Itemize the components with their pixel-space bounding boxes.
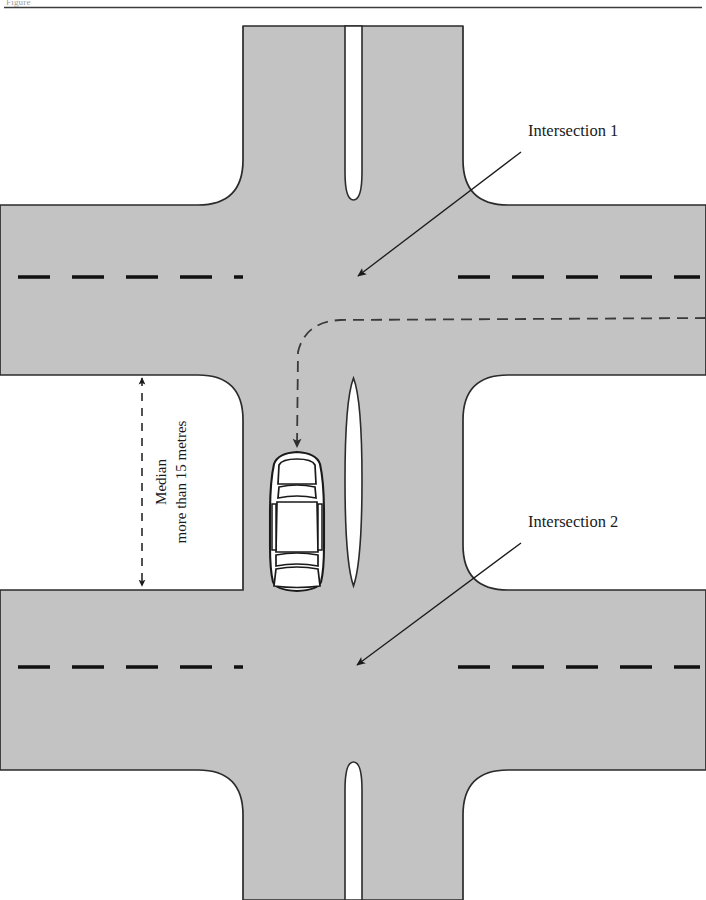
- intersection-2-label: Intersection 2: [528, 512, 618, 531]
- car-window-right: [318, 504, 322, 550]
- intersection-1-label: Intersection 1: [528, 121, 618, 140]
- median-islands-group: [345, 26, 362, 900]
- car-roof-panel: [276, 502, 318, 552]
- intersection-diagram: Median more than 15 metres Intersection …: [0, 0, 706, 900]
- car-window-left: [272, 504, 276, 550]
- centre-median-island: [345, 378, 362, 586]
- car-rear-roof-edge: [278, 485, 316, 498]
- median-dimension-label-line1: Median: [153, 459, 169, 505]
- car-top-view: [270, 452, 324, 591]
- lower-median-island: [345, 762, 362, 900]
- car-bonnet: [274, 567, 320, 588]
- median-width-dimension: Median more than 15 metres: [142, 378, 189, 586]
- median-dimension-label-line2: more than 15 metres: [173, 420, 189, 543]
- car-rear-window: [278, 459, 316, 484]
- figure-page: Figure: [0, 0, 706, 900]
- upper-median-island: [345, 26, 362, 200]
- car-front-roof-edge: [276, 553, 318, 566]
